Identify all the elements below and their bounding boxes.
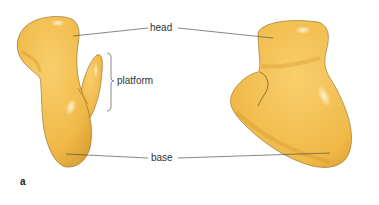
platform-bracket (107, 53, 114, 111)
base-label: base (151, 153, 173, 163)
head-label: head (150, 23, 172, 33)
right-molecule-view (231, 20, 352, 167)
head-leader-left (73, 28, 148, 36)
left-molecule-view (17, 16, 102, 167)
platform-label: platform (117, 76, 153, 86)
diagram-canvas (0, 0, 379, 205)
panel-label: a (20, 176, 26, 187)
right-body (231, 20, 352, 167)
